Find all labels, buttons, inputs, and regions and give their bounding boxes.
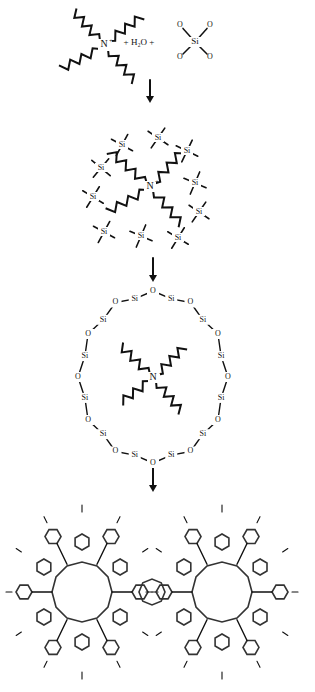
silicate-ring-stage: OSiOSiOSiOSiOSiOSiOSiOSiOSiOSiOSiOSiN+ — [72, 286, 234, 468]
si-atom-label: Si — [218, 351, 225, 360]
nitrogen-atom-label: N — [149, 371, 156, 382]
oxygen-atom-label: O — [177, 52, 183, 61]
oxygen-atom-label: O — [207, 20, 213, 29]
positive-charge-label: + — [155, 178, 159, 186]
si-atom-label: Si — [175, 233, 182, 242]
oxygen-atom-label: O — [188, 446, 194, 455]
nitrogen-atom-label: N — [100, 38, 107, 49]
si-atom-label: Si — [184, 146, 191, 155]
oxygen-atom-label: O — [177, 20, 183, 29]
positive-charge-label: + — [159, 370, 163, 378]
si-atom-label: Si — [192, 178, 199, 187]
si-atom-label: Si — [90, 192, 97, 201]
si-atom-label: Si — [100, 315, 107, 324]
si-atom-label: Si — [131, 294, 138, 303]
oxygen-atom-label: O — [207, 52, 213, 61]
oxygen-atom-label: O — [215, 329, 221, 338]
water-reagent-label: + H₂O + — [124, 37, 155, 47]
reactants-stage: N++ H₂O +OOOOSi — [59, 8, 213, 84]
si-atom-label: Si — [138, 231, 145, 240]
si-atom-label: Si — [100, 429, 107, 438]
oxygen-atom-label: O — [188, 297, 194, 306]
si-atom-label: Si — [168, 294, 175, 303]
oxygen-atom-label: O — [85, 329, 91, 338]
si-atom-label: Si — [82, 393, 89, 402]
si-atom-label: Si — [200, 429, 207, 438]
si-atom-label: Si — [119, 140, 126, 149]
arrow-head-icon — [149, 275, 157, 282]
oxygen-atom-label: O — [75, 372, 81, 381]
zeolite-framework-stage — [6, 505, 298, 679]
si-atom-label: Si — [168, 450, 175, 459]
si-atom-label: Si — [155, 133, 162, 142]
arrow-head-icon — [149, 485, 157, 492]
si-atom-label: Si — [101, 227, 108, 236]
oxygen-atom-label: O — [225, 372, 231, 381]
si-atom-label: Si — [200, 315, 207, 324]
oxygen-atom-label: O — [113, 297, 119, 306]
hydrated-silica-cluster-stage: N+SiSiSiSiSiSiSiSiSiSi — [83, 128, 209, 248]
si-atom-label: Si — [98, 163, 105, 172]
nitrogen-atom-label: N — [146, 180, 153, 191]
oxygen-atom-label: O — [85, 415, 91, 424]
silicon-atom-label: Si — [191, 36, 199, 46]
si-atom-label: Si — [82, 351, 89, 360]
oxygen-atom-label: O — [215, 415, 221, 424]
oxygen-atom-label: O — [150, 458, 156, 467]
synthesis-scheme-diagram: N++ H₂O +OOOOSi N+SiSiSiSiSiSiSiSiSiSi O… — [0, 0, 315, 692]
si-atom-label: Si — [196, 207, 203, 216]
si-atom-label: Si — [131, 450, 138, 459]
oxygen-atom-label: O — [113, 446, 119, 455]
positive-charge-label: + — [109, 37, 113, 45]
si-atom-label: Si — [218, 393, 225, 402]
arrow-head-icon — [146, 96, 154, 103]
oxygen-atom-label: O — [150, 286, 156, 295]
